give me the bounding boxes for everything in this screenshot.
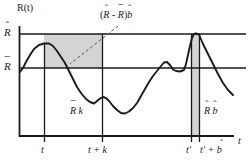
figure-canvas bbox=[0, 0, 251, 163]
y-tick-label-r-hat: R̂ bbox=[4, 27, 11, 38]
rbar-k-label: R̅ k bbox=[70, 106, 83, 116]
x-tick-label-t-plus-k: t + k bbox=[88, 145, 107, 155]
y-axis-label: R(t) bbox=[17, 3, 33, 13]
reliability-figure: R(t) t R̂ R̅ (R̂ - R̅)b̂ R̅ k R̂ b̂ t t … bbox=[0, 0, 251, 163]
x-tick-label-t-prime-plus-b: t' + b̂ bbox=[200, 145, 222, 155]
y-tick-label-r-bar: R̅ bbox=[4, 61, 11, 72]
x-axis-label: t bbox=[238, 136, 241, 146]
area-annotation-label: (R̂ - R̅)b̂ bbox=[100, 10, 132, 20]
rhat-bhat-label: R̂ b̂ bbox=[204, 106, 218, 116]
shaded-area-block bbox=[44, 34, 102, 68]
x-tick-label-t-prime: t' bbox=[186, 145, 191, 155]
x-tick-label-t: t bbox=[41, 145, 44, 155]
shaded-area-bar bbox=[191, 34, 199, 136]
reliability-curve bbox=[20, 34, 233, 114]
